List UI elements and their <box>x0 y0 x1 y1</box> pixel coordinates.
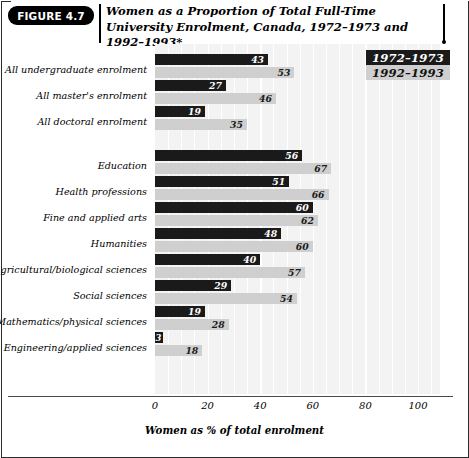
bar-group: 1935 <box>155 106 440 130</box>
bar-group: 5667 <box>155 150 440 174</box>
bar-value-label: 62 <box>301 216 314 225</box>
bar-value-label: 27 <box>209 81 222 90</box>
chart-legend: 1972–1973 1992–1993 <box>366 50 450 80</box>
bar-1972-1973: 43 <box>155 54 268 65</box>
x-axis-line <box>8 396 453 397</box>
bar-value-label: 29 <box>214 281 227 290</box>
bar-value-label: 54 <box>280 294 293 303</box>
bar-1972-1973: 3 <box>155 332 163 343</box>
bar-1972-1973: 27 <box>155 80 226 91</box>
bar-1992-1993: 46 <box>155 93 276 104</box>
category-label: Engineering/applied sciences <box>4 342 147 353</box>
chart-area: All undergraduate enrolmentAll master's … <box>8 44 461 450</box>
bar-value-label: 56 <box>285 151 298 160</box>
x-axis-ticks: 020406080100 <box>155 400 440 416</box>
category-label: Social sciences <box>73 290 147 301</box>
bar-group: 4860 <box>155 228 440 252</box>
bar-value-label: 19 <box>188 307 201 316</box>
bar-1992-1993: 67 <box>155 163 331 174</box>
bar-value-label: 57 <box>288 268 301 277</box>
bar-1992-1993: 57 <box>155 267 305 278</box>
bar-value-label: 66 <box>312 190 325 199</box>
bar-group: 6062 <box>155 202 440 226</box>
category-label: Humanities <box>91 238 147 249</box>
bar-1972-1973: 51 <box>155 176 289 187</box>
x-tick-100: 100 <box>408 400 427 411</box>
category-label: All undergraduate enrolment <box>5 64 147 75</box>
bar-value-label: 46 <box>259 94 272 103</box>
bar-1992-1993: 18 <box>155 345 202 356</box>
figure-container: FIGURE 4.7 Women as a Proportion of Tota… <box>0 0 469 458</box>
bar-1992-1993: 54 <box>155 293 297 304</box>
bar-group: 4057 <box>155 254 440 278</box>
bar-group: 1928 <box>155 306 440 330</box>
bar-group: 318 <box>155 332 440 356</box>
bar-value-label: 67 <box>314 164 327 173</box>
header-divider-right <box>443 4 445 41</box>
figure-number-badge: FIGURE 4.7 <box>8 6 94 25</box>
category-label: Agricultural/biological sciences <box>0 264 147 275</box>
bar-1972-1973: 48 <box>155 228 281 239</box>
category-label: Education <box>98 160 147 171</box>
bar-1972-1973: 40 <box>155 254 260 265</box>
bar-value-label: 40 <box>243 255 256 264</box>
bar-1972-1973: 60 <box>155 202 313 213</box>
bar-1972-1973: 29 <box>155 280 231 291</box>
figure-header: FIGURE 4.7 Women as a Proportion of Tota… <box>8 4 461 40</box>
category-label: Mathematics/physical sciences <box>0 316 147 327</box>
bar-value-label: 35 <box>230 120 243 129</box>
bar-1972-1973: 19 <box>155 306 205 317</box>
legend-item-1972: 1972–1973 <box>366 50 450 65</box>
bar-value-label: 60 <box>296 203 309 212</box>
figure-border-top-stub <box>1 1 11 2</box>
x-axis-label: Women as % of total enrolment <box>8 424 461 436</box>
x-tick-80: 80 <box>359 400 372 411</box>
category-label: All doctoral enrolment <box>37 116 147 127</box>
bar-1992-1993: 60 <box>155 241 313 252</box>
x-tick-60: 60 <box>306 400 319 411</box>
bar-group: 2746 <box>155 80 440 104</box>
bar-value-label: 18 <box>185 346 198 355</box>
x-tick-40: 40 <box>254 400 267 411</box>
category-label: Fine and applied arts <box>43 212 147 223</box>
bar-group: 2954 <box>155 280 440 304</box>
bar-1992-1993: 66 <box>155 189 329 200</box>
legend-item-1992: 1992–1993 <box>366 65 450 80</box>
bar-value-label: 19 <box>188 107 201 116</box>
bar-1992-1993: 62 <box>155 215 318 226</box>
bar-value-label: 51 <box>272 177 285 186</box>
bar-value-label: 3 <box>156 333 162 341</box>
x-tick-0: 0 <box>152 400 158 411</box>
bar-1972-1973: 19 <box>155 106 205 117</box>
bar-value-label: 28 <box>212 320 225 329</box>
bar-value-label: 48 <box>264 229 277 238</box>
bar-value-label: 53 <box>277 68 290 77</box>
bar-1992-1993: 28 <box>155 319 229 330</box>
header-divider-left <box>99 4 101 43</box>
category-label: Health professions <box>56 186 147 197</box>
category-label: All master's enrolment <box>36 90 147 101</box>
bar-group: 5166 <box>155 176 440 200</box>
bar-rows: 4353274619355667516660624860405729541928… <box>155 44 440 394</box>
bar-1992-1993: 35 <box>155 119 247 130</box>
bar-value-label: 43 <box>251 55 264 64</box>
bar-value-label: 60 <box>296 242 309 251</box>
category-labels: All undergraduate enrolmentAll master's … <box>8 44 151 394</box>
bar-1972-1973: 56 <box>155 150 302 161</box>
x-tick-20: 20 <box>201 400 214 411</box>
bar-1992-1993: 53 <box>155 67 294 78</box>
